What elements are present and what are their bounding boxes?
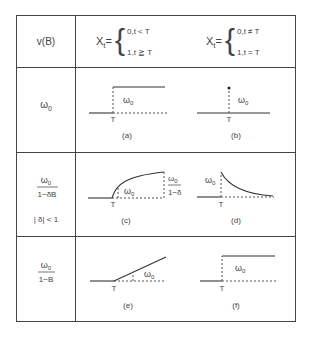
svg-text:(b): (b) [231,131,241,140]
left-brace: { [225,23,235,56]
svg-text:1−δ: 1−δ [168,188,182,197]
svg-text:(a): (a) [122,131,132,140]
svg-text:ω0: ω0 [168,174,178,184]
left-brace: { [115,23,125,56]
graph-f-step: ω0 T (f) [200,256,277,310]
pulse-dot [228,87,231,90]
svg-text:Xt=: Xt= [206,35,222,50]
header-step-definition: Xt= { 0,t < T 1,t ≧ T [96,23,152,57]
svg-text:(c): (c) [121,216,131,225]
header-vb: v(B) [37,36,55,47]
svg-text:1−δB: 1−δB [38,190,57,199]
svg-text:1−B: 1−B [39,275,53,284]
graph-a-step-response: ω0 T (a) [89,87,168,140]
svg-text:Xt=: Xt= [96,35,112,50]
svg-text:(f): (f) [232,301,240,310]
svg-text:0,t < T: 0,t < T [127,27,150,36]
svg-text:ω0: ω0 [238,95,249,106]
svg-text:1,t ≧ T: 1,t ≧ T [127,48,152,57]
svg-text:(e): (e) [123,301,133,310]
row3-label: ω0 1−B [38,260,55,284]
svg-text:T: T [111,115,116,124]
svg-text:0,t ≠ T: 0,t ≠ T [237,27,260,36]
row1-label: ω0 [40,99,52,112]
row2-label: ω0 1−δB | δ| < 1 [34,175,59,224]
svg-text:ω0: ω0 [41,175,52,186]
svg-text:1,t = T: 1,t = T [237,48,260,57]
svg-text:ω0: ω0 [41,260,52,271]
svg-text:ω0: ω0 [205,175,216,186]
svg-text:ω0: ω0 [123,95,134,106]
table-grid [17,16,296,322]
graph-b-pulse-response: ω0 T (b) [197,87,270,141]
svg-text:ω0: ω0 [124,186,135,197]
svg-text:T: T [227,115,232,124]
svg-text:ω0: ω0 [235,263,246,274]
svg-text:T: T [112,284,117,293]
svg-text:T: T [220,284,225,293]
svg-text:ω0: ω0 [144,269,155,280]
graph-e-ramp: ω0 T (e) [90,257,166,310]
transfer-function-table: v(B) Xt= { 0,t < T 1,t ≧ T Xt= { 0,t ≠ T… [0,0,310,338]
header-pulse-definition: Xt= { 0,t ≠ T 1,t = T [206,23,260,57]
svg-text:T: T [219,200,224,209]
graph-d-exponential-decay: ω0 T (d) [197,172,274,225]
graph-c-exponential-approach: ω0 ω0 1−δ T (c) [88,172,182,225]
svg-text:| δ| < 1: | δ| < 1 [34,215,59,224]
svg-text:T: T [111,200,116,209]
svg-text:(d): (d) [231,216,241,225]
